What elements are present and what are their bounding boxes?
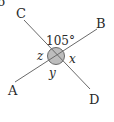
angle-label-y: y xyxy=(48,66,56,80)
angle-label-x: x xyxy=(69,52,76,66)
line-cd xyxy=(24,20,90,89)
point-label-d: D xyxy=(89,92,99,107)
point-label-a: A xyxy=(7,83,18,98)
angle-label-top: 105° xyxy=(46,34,75,48)
intersecting-lines-diagram: 6 C B A D 105° x y z xyxy=(0,0,114,122)
point-label-b: B xyxy=(96,16,106,31)
point-label-c: C xyxy=(16,6,26,21)
angle-label-z: z xyxy=(36,49,44,63)
corner-fragment: 6 xyxy=(0,0,5,9)
